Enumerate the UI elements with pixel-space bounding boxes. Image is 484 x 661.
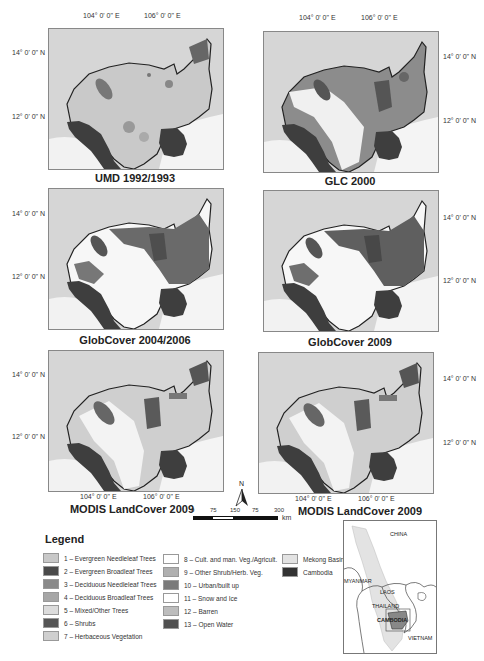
map-title-globcover-2006: GlobCover 2004/2006	[48, 334, 222, 346]
map-globcover-2009	[263, 190, 439, 332]
scale-label-0: 0	[191, 507, 194, 513]
scale-label-75: 75	[210, 507, 217, 513]
lon-label-104-top-right: 104° 0' 0" E	[299, 14, 336, 21]
lat-label-12-row3: 12° 0' 0" N	[12, 433, 45, 440]
legend-item-12: 12 – Barren	[163, 606, 218, 616]
map-modis-left-graphic	[49, 351, 223, 491]
legend-item-2: 2 – Evergreen Broadleaf Trees	[43, 566, 153, 576]
legend-item-9: 9 – Other Shrub/Herb. Veg.	[163, 567, 263, 577]
lat-label-12-row1: 12° 0' 0" N	[12, 113, 45, 120]
inset-label-laos: LAOS	[380, 589, 395, 595]
lat-label-14-row2-right: 14° 0' 0" N	[443, 214, 476, 221]
legend-item-11: 11 – Snow and Ice	[163, 593, 237, 603]
lon-label-106-bottom-right: 106° 0' 0" E	[358, 495, 395, 502]
map-modis-right-graphic	[259, 353, 433, 493]
map-title-modis-right: MODIS LandCover 2009	[290, 505, 430, 517]
map-glc-graphic	[264, 32, 438, 172]
legend-swatch	[163, 606, 179, 616]
lat-label-14-row1: 14° 0' 0" N	[12, 49, 45, 56]
legend-item-cambodia: Cambodia	[282, 567, 333, 577]
inset-label-cambodia: CAMBODIA	[377, 617, 407, 623]
inset-locator-map: CHINA MYANMAR LAOS THAILAND CAMBODIA VIE…	[343, 520, 437, 654]
legend-item-mekong-basin: Mekong Basin	[282, 554, 344, 564]
legend-swatch	[163, 554, 179, 564]
inset-map-graphic	[344, 521, 436, 653]
map-title-globcover-2009: GlobCover 2009	[263, 336, 437, 348]
legend-item-7: 7 – Herbaceous Vegetation	[43, 631, 142, 641]
lon-label-106-top-left: 106° 0' 0" E	[144, 12, 181, 19]
inset-label-myanmar: MYANMAR	[344, 578, 372, 584]
north-arrow-icon	[235, 489, 249, 507]
legend-swatch	[43, 553, 59, 563]
inset-label-china: CHINA	[390, 531, 407, 537]
legend-swatch	[282, 554, 298, 564]
map-title-modis-left: MODIS LandCover 2009	[62, 503, 202, 515]
lat-label-14-row3-right: 14° 0' 0" N	[443, 375, 476, 382]
scale-label-75b: 75	[252, 507, 259, 513]
legend-swatch	[163, 567, 179, 577]
legend-swatch	[282, 567, 298, 577]
inset-label-thailand: THAILAND	[372, 603, 399, 609]
scale-label-300: 300	[274, 507, 284, 513]
legend-swatch	[163, 580, 179, 590]
lat-label-12-row2: 12° 0' 0" N	[12, 273, 45, 280]
legend-item-3: 3 – Deciduous Needleleaf Trees	[43, 579, 157, 589]
legend-item-5: 5 – Mixed/Other Trees	[43, 605, 128, 615]
legend-swatch	[163, 593, 179, 603]
map-umd-1992	[48, 28, 224, 170]
lat-label-14-row1-right: 14° 0' 0" N	[443, 53, 476, 60]
legend-swatch	[163, 619, 179, 629]
legend-swatch	[43, 592, 59, 602]
map-umd-graphic	[49, 29, 223, 169]
lon-label-106-bottom-left: 106° 0' 0" E	[143, 493, 180, 500]
map-globcover-2006-graphic	[49, 189, 223, 329]
scale-unit: km	[282, 514, 291, 521]
legend-swatch	[43, 566, 59, 576]
north-arrow: N	[233, 480, 253, 510]
legend-swatch	[43, 618, 59, 628]
lon-label-104-bottom-right: 104° 0' 0" E	[295, 495, 332, 502]
legend-title: Legend	[45, 533, 84, 545]
map-modis-2009-right	[258, 352, 434, 494]
scale-label-150: 150	[230, 507, 240, 513]
lon-label-106-top-right: 106° 0' 0" E	[361, 14, 398, 21]
legend-item-4: 4 – Deciduous Broadleaf Trees	[43, 592, 153, 602]
inset-label-vietnam: VIETNAM	[408, 635, 432, 641]
map-modis-2009-left	[48, 350, 224, 492]
legend-swatch	[43, 631, 59, 641]
scale-bar: 0 75 150 75 300 km	[190, 507, 310, 527]
map-title-glc: GLC 2000	[263, 175, 437, 187]
legend-swatch	[43, 605, 59, 615]
lat-label-12-row3-right: 12° 0' 0" N	[443, 439, 476, 446]
map-globcover-2006	[48, 188, 224, 330]
legend-swatch	[43, 579, 59, 589]
map-globcover-2009-graphic	[264, 191, 438, 331]
legend-item-6: 6 – Shrubs	[43, 618, 95, 628]
north-label: N	[239, 480, 244, 487]
legend-item-10: 10 – Urban/built up	[163, 580, 239, 590]
lon-label-104-top-left: 104° 0' 0" E	[83, 12, 120, 19]
legend-item-1: 1 – Evergreen Needleleaf Trees	[43, 553, 156, 563]
legend-item-13: 13 – Open Water	[163, 619, 233, 629]
lon-label-104-bottom-left: 104° 0' 0" E	[80, 493, 117, 500]
lat-label-12-row2-right: 12° 0' 0" N	[443, 277, 476, 284]
lat-label-12-row1-right: 12° 0' 0" N	[443, 117, 476, 124]
map-glc-2000	[263, 31, 439, 173]
map-title-umd: UMD 1992/1993	[48, 172, 222, 184]
lat-label-14-row2: 14° 0' 0" N	[12, 210, 45, 217]
lat-label-14-row3: 14° 0' 0" N	[12, 371, 45, 378]
legend-item-8: 8 – Cult. and man. Veg./Agricult.	[163, 554, 277, 564]
